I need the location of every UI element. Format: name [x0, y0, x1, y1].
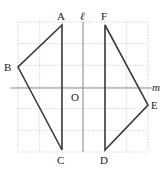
diagram-canvas: [0, 0, 167, 173]
label-D: D: [100, 155, 108, 166]
label-l: ℓ: [80, 11, 85, 22]
label-A: A: [57, 11, 65, 22]
label-B: B: [4, 62, 11, 73]
label-C: C: [57, 155, 64, 166]
label-F: F: [101, 11, 107, 22]
label-m: m: [152, 82, 160, 93]
label-O: O: [71, 92, 79, 103]
label-E: E: [151, 100, 158, 111]
geometry-figure: AℓFBmEOCD: [0, 0, 167, 173]
